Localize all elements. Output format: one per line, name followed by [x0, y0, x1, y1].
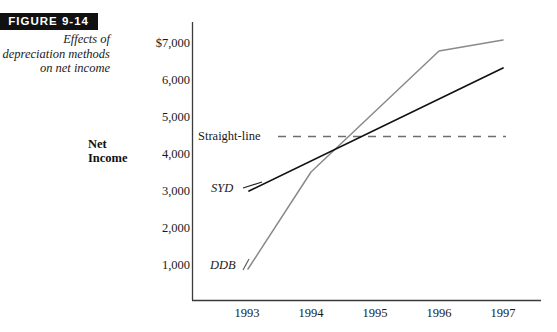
figure-page: FIGURE 9-14 Effects of depreciation meth… [0, 0, 557, 332]
series-line-syd [249, 68, 503, 191]
series-line-ddb [248, 40, 503, 269]
syd-label-leader [243, 182, 262, 188]
chart-plot-area [0, 0, 557, 332]
